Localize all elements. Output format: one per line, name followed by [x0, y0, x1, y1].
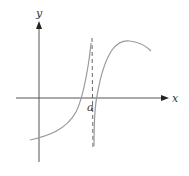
asymptote-label: a	[87, 101, 94, 114]
right-branch-curve	[94, 41, 151, 146]
function-graph: y x a	[0, 0, 189, 176]
y-axis-arrow-icon	[36, 21, 42, 29]
vertical-asymptote	[92, 38, 93, 148]
y-axis-label: y	[35, 7, 43, 20]
x-axis-arrow-icon	[161, 95, 169, 101]
x-axis-label: x	[172, 92, 179, 105]
